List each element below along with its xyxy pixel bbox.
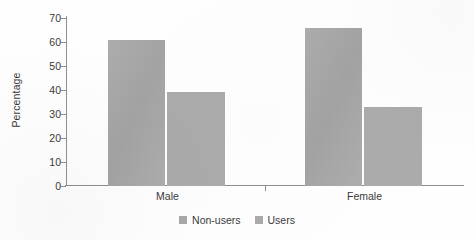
y-axis-tick-label: 20 — [49, 132, 61, 144]
bar-fill — [108, 40, 165, 186]
legend-swatch-icon — [179, 216, 187, 224]
bar-group-male — [108, 18, 227, 186]
y-axis-tick-label: 30 — [49, 108, 61, 120]
y-axis-line — [66, 16, 67, 186]
bar-chart: Percentage 010203040506070 Male Female N… — [0, 0, 474, 240]
y-axis-tick-mark — [61, 90, 66, 91]
chart-legend: Non-usersUsers — [0, 214, 474, 226]
y-axis-tick-mark — [61, 114, 66, 115]
legend-item-non-users: Non-users — [179, 214, 240, 226]
x-axis-label-female: Female — [347, 190, 382, 202]
y-axis-title-text: Percentage — [10, 72, 22, 127]
x-axis-label-male: Male — [156, 190, 179, 202]
x-axis-labels: Male Female — [66, 190, 464, 206]
y-axis-tick-label: 50 — [49, 60, 61, 72]
y-axis-tick-label: 0 — [55, 180, 61, 192]
y-axis-tick-label: 70 — [49, 12, 61, 24]
y-axis-title: Percentage — [6, 0, 26, 200]
y-axis-tick-mark — [61, 162, 66, 163]
legend-label: Non-users — [192, 214, 240, 226]
y-axis-tick-mark — [61, 186, 66, 187]
bar-fill — [364, 107, 421, 186]
bar-fill — [305, 28, 362, 186]
plot-area: 010203040506070 — [66, 18, 464, 186]
y-axis-tick-label: 40 — [49, 84, 61, 96]
legend-label: Users — [268, 214, 295, 226]
legend-swatch-icon — [255, 216, 263, 224]
y-axis-tick-mark — [61, 42, 66, 43]
bar-fill — [167, 92, 224, 186]
bar-male-non-users — [108, 40, 165, 186]
y-axis-tick-mark — [61, 66, 66, 67]
bar-male-users — [167, 92, 224, 186]
y-axis-tick-label: 60 — [49, 36, 61, 48]
y-axis-tick-mark — [61, 18, 66, 19]
bar-female-non-users — [305, 28, 362, 186]
legend-item-users: Users — [255, 214, 295, 226]
bar-group-female — [305, 18, 424, 186]
bar-female-users — [364, 107, 421, 186]
y-axis-tick-mark — [61, 138, 66, 139]
y-axis-tick-label: 10 — [49, 156, 61, 168]
